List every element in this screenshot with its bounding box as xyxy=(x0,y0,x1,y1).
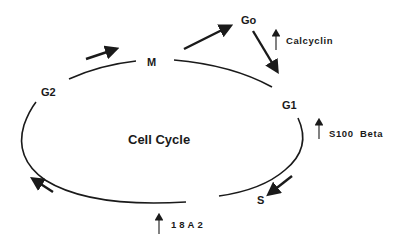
phase-label-m: M xyxy=(147,56,156,68)
arrow-s-to-g2-icon xyxy=(33,179,53,192)
factor-label-s100-beta: S100 Beta xyxy=(329,128,383,139)
diagram-title: Cell Cycle xyxy=(128,132,190,147)
phase-label-g1: G1 xyxy=(282,99,297,111)
arrow-g2-to-m-icon xyxy=(86,49,116,59)
arrow-m-to-go-icon xyxy=(184,26,230,49)
arrow-go-to-g1-icon xyxy=(253,31,277,71)
phase-label-go: Go xyxy=(241,14,257,26)
flow-arrows xyxy=(33,26,292,194)
phase-label-g2: G2 xyxy=(41,86,56,98)
factor-label-calcyclin: Calcyclin xyxy=(286,35,333,46)
arc-m-g1 xyxy=(174,60,272,87)
arc-g1-s xyxy=(219,118,303,196)
arc-g2-m xyxy=(69,61,136,79)
cell-cycle-diagram: M Go G1 S G2 Cell Cycle Calcyclin S100 B… xyxy=(0,0,404,250)
phase-label-s: S xyxy=(257,194,264,206)
factor-label-18a2: 18A2 xyxy=(171,219,206,230)
